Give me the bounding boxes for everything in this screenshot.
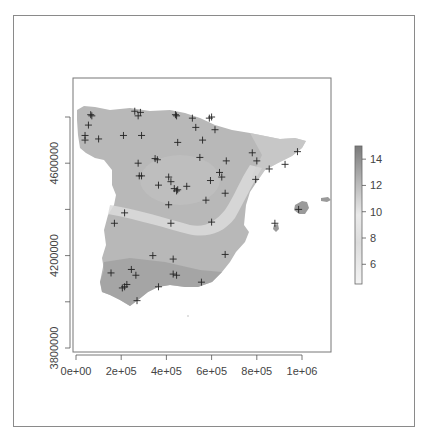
- y-tick-label: 4200000: [48, 234, 60, 277]
- colorbar-tick-label: 6: [370, 258, 376, 270]
- x-tick-label: 2e+05: [106, 365, 137, 377]
- colorbar-tick-label: 10: [370, 206, 382, 218]
- x-tick-label: 4e+05: [151, 365, 182, 377]
- x-tick-label: 0e+00: [61, 365, 92, 377]
- y-tick-label: 3800000: [48, 327, 60, 370]
- colorbar-tick-label: 12: [370, 179, 382, 191]
- y-axis: 380000042000004600000: [48, 117, 70, 369]
- x-tick-label: 8e+05: [241, 365, 272, 377]
- x-tick-label: 6e+05: [196, 365, 227, 377]
- chart-canvas: 0e+002e+054e+056e+058e+051e+06 380000042…: [0, 0, 427, 440]
- colorbar-tick-label: 8: [370, 232, 376, 244]
- x-tick-label: 1e+06: [287, 365, 318, 377]
- colorbar-legend: 68101214: [355, 146, 382, 284]
- y-tick-label: 4600000: [48, 142, 60, 185]
- colorbar: [355, 146, 362, 284]
- x-axis: 0e+002e+054e+056e+058e+051e+06: [61, 355, 318, 377]
- colorbar-tick-label: 14: [370, 153, 382, 165]
- colorbar-ticks: 68101214: [362, 153, 382, 270]
